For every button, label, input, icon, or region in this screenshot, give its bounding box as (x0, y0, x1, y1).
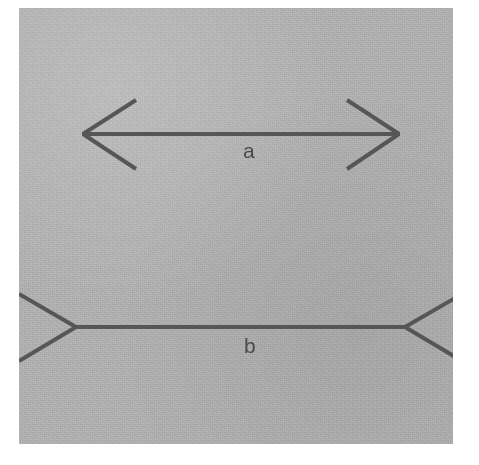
bottom-arrow-figure (19, 294, 453, 361)
bottom-left-fin-upper (19, 294, 76, 327)
top-right-fin-lower (347, 134, 399, 169)
caption-fragment (22, 452, 202, 463)
bottom-right-fin-lower (405, 327, 453, 361)
illustration-plate: a b (19, 8, 453, 444)
label-b: b (244, 335, 256, 356)
bottom-right-fin-upper (405, 294, 453, 327)
label-a: a (243, 140, 255, 161)
top-left-fin-upper (83, 100, 136, 134)
bottom-left-fin-lower (19, 327, 76, 361)
top-left-fin-lower (83, 134, 136, 169)
top-arrow-figure (82, 100, 400, 169)
top-right-fin-upper (347, 100, 399, 134)
figure-page: a b (0, 0, 479, 465)
muller-lyer-drawing (19, 8, 453, 444)
